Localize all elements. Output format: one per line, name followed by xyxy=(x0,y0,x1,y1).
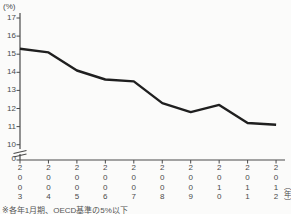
x-axis-year-label: 2004 xyxy=(43,163,53,202)
x-axis-year-label: 2008 xyxy=(157,163,167,202)
x-axis-year-label: 2010 xyxy=(214,163,224,202)
x-axis-year-label: 2007 xyxy=(129,163,139,202)
x-axis-year-label: 2012 xyxy=(271,163,281,202)
y-tick-label: 15 xyxy=(0,49,16,59)
y-tick-label: 16 xyxy=(0,31,16,41)
y-tick-label: 17 xyxy=(0,13,16,23)
y-tick-label: 14 xyxy=(0,67,16,77)
x-axis-year-label: 2005 xyxy=(72,163,82,202)
x-axis-year-label: 2006 xyxy=(100,163,110,202)
line-chart-figure: (%) 17161514131211100 200320042005200620… xyxy=(0,0,291,214)
x-axis-year-label: 2009 xyxy=(186,163,196,202)
footnote-caption: ※各年1月期、OECD基準の5%以下 xyxy=(2,205,128,214)
y-tick-label: 13 xyxy=(0,85,16,95)
y-tick-label: 0 xyxy=(0,154,16,164)
y-tick-label: 12 xyxy=(0,104,16,114)
x-axis-year-label: 2011 xyxy=(243,163,253,202)
x-axis-unit-label: （年） xyxy=(282,182,290,206)
x-axis-year-label: 2003 xyxy=(15,163,25,202)
y-tick-label: 10 xyxy=(0,140,16,150)
y-tick-label: 11 xyxy=(0,122,16,132)
